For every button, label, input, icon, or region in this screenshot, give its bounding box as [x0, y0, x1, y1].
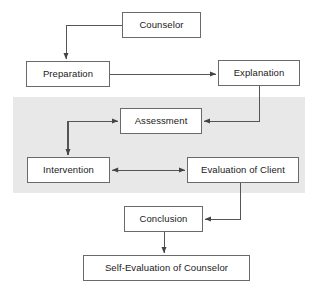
node-label-evaluation: Evaluation of Client: [201, 165, 285, 175]
node-explanation[interactable]: Explanation: [218, 60, 300, 86]
node-evaluation[interactable]: Evaluation of Client: [187, 157, 299, 183]
node-label-preparation: Preparation: [43, 69, 93, 79]
node-assessment[interactable]: Assessment: [120, 108, 202, 134]
node-label-assessment: Assessment: [135, 116, 188, 126]
node-label-conclusion: Conclusion: [140, 214, 188, 224]
node-label-self_evaluation: Self-Evaluation of Counselor: [105, 263, 228, 273]
node-self_evaluation[interactable]: Self-Evaluation of Counselor: [83, 255, 250, 281]
node-label-explanation: Explanation: [234, 68, 285, 78]
flowchart-diagram: CounselorPreparationExplanationAssessmen…: [0, 0, 318, 289]
node-conclusion[interactable]: Conclusion: [124, 206, 203, 232]
node-preparation[interactable]: Preparation: [26, 61, 110, 87]
node-label-intervention: Intervention: [43, 165, 94, 175]
node-counselor[interactable]: Counselor: [122, 12, 201, 38]
node-intervention[interactable]: Intervention: [27, 157, 110, 183]
node-label-counselor: Counselor: [139, 20, 183, 30]
connector-layer: [0, 0, 318, 289]
connector-counselor-to-preparation: [66, 25, 122, 59]
